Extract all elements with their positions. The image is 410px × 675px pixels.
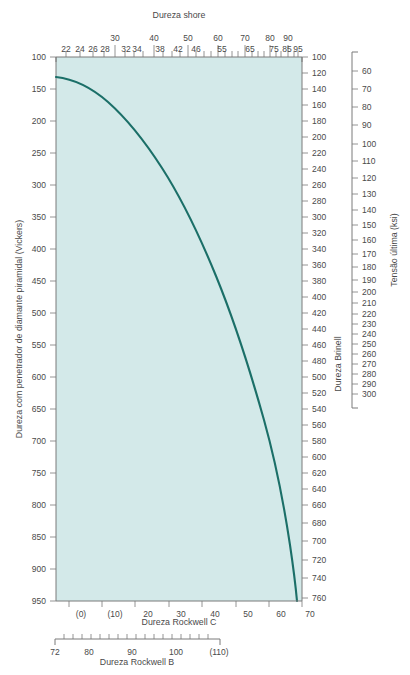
top-tick-label: 24 [75, 44, 85, 54]
left-tick-label: 350 [32, 212, 46, 222]
far-right-axis-title: Tensão última (ksi) [389, 213, 399, 286]
far-right-tick-label: 250 [362, 339, 376, 349]
left-tick-label: 450 [32, 276, 46, 286]
right-tick-label: 700 [312, 536, 326, 546]
bottom-tick-label: (10) [107, 609, 122, 619]
bottom-tick-label: 50 [243, 609, 253, 619]
bottom-secondary-tick-label: (110) [209, 647, 228, 657]
right-axis-labels: 100 120 140 160 180 200 220 240 260 280 … [312, 52, 326, 603]
right-tick-label: 500 [312, 372, 326, 382]
bottom-secondary-tick-label: 72 [50, 647, 60, 657]
right-tick-label: 600 [312, 452, 326, 462]
far-right-tick-label: 60 [362, 66, 372, 76]
left-tick-label: 550 [32, 340, 46, 350]
right-tick-label: 380 [312, 276, 326, 286]
top-tick-label: 60 [213, 33, 223, 43]
far-right-tick-label: 130 [362, 189, 376, 199]
top-tick-label: 34 [132, 44, 142, 54]
right-tick-label: 320 [312, 228, 326, 238]
left-tick-label: 950 [32, 596, 46, 606]
top-tick-label: 32 [121, 44, 131, 54]
top-tick-label: 30 [110, 33, 120, 43]
right-axis-ticks [302, 57, 308, 598]
top-axis-upper-labels: 30 40 50 60 70 80 90 [110, 33, 293, 43]
far-right-tick-label: 80 [362, 102, 372, 112]
right-tick-label: 480 [312, 356, 326, 366]
left-tick-label: 100 [32, 52, 46, 62]
right-tick-label: 680 [312, 518, 326, 528]
left-tick-label: 400 [32, 244, 46, 254]
far-right-tick-label: 200 [362, 287, 376, 297]
top-tick-label: 38 [155, 44, 165, 54]
top-tick-label: 65 [245, 44, 255, 54]
right-tick-label: 540 [312, 404, 326, 414]
far-right-tick-label: 150 [362, 220, 376, 230]
far-right-tick-label: 280 [362, 369, 376, 379]
far-right-tick-label: 220 [362, 309, 376, 319]
top-tick-label: 42 [173, 44, 183, 54]
top-tick-label: 28 [100, 44, 110, 54]
far-right-tick-label: 270 [362, 359, 376, 369]
far-right-tick-label: 90 [362, 120, 372, 130]
right-tick-label: 340 [312, 244, 326, 254]
bottom-secondary-tick-label: 80 [84, 647, 94, 657]
far-right-tick-label: 240 [362, 329, 376, 339]
far-right-tick-label: 140 [362, 205, 376, 215]
right-tick-label: 560 [312, 420, 326, 430]
right-tick-label: 100 [312, 52, 326, 62]
left-axis-vickers: Dureza com penetrador de diamante pirami… [14, 52, 56, 606]
left-tick-label: 650 [32, 404, 46, 414]
far-right-tick-label: 230 [362, 319, 376, 329]
far-right-tick-label: 120 [362, 173, 376, 183]
right-tick-label: 660 [312, 500, 326, 510]
top-tick-label: 46 [191, 44, 201, 54]
far-right-tick-label: 100 [362, 139, 376, 149]
right-tick-label: 140 [312, 84, 326, 94]
far-right-tick-label: 210 [362, 298, 376, 308]
left-tick-label: 800 [32, 500, 46, 510]
right-tick-label: 740 [312, 573, 326, 583]
left-tick-label: 900 [32, 564, 46, 574]
bottom-tick-label: (0) [76, 609, 87, 619]
bottom-secondary-labels: 72 80 90 100 (110) [50, 647, 229, 657]
far-right-tick-label: 170 [362, 249, 376, 259]
far-right-tick-label: 290 [362, 379, 376, 389]
top-tick-label: 90 [283, 33, 293, 43]
far-right-axis-tensile: Tensão última (ksi) [352, 52, 399, 408]
right-tick-label: 360 [312, 260, 326, 270]
bottom-tick-label: 20 [143, 609, 153, 619]
top-axis-title: Dureza shore [153, 10, 206, 20]
left-axis-labels: 100 150 200 250 300 350 400 450 500 550 … [32, 52, 46, 606]
bottom-tick-label: 60 [276, 609, 286, 619]
bottom-secondary-axis-title: Dureza Rockwell B [100, 657, 174, 667]
far-right-tick-label: 260 [362, 349, 376, 359]
far-right-tick-label: 190 [362, 275, 376, 285]
left-axis-title: Dureza com penetrador de diamante pirami… [14, 220, 24, 438]
top-tick-label: 75 [269, 44, 279, 54]
right-tick-label: 460 [312, 340, 326, 350]
right-tick-label: 200 [312, 132, 326, 142]
right-axis-brinell: Dureza Brinell [302, 52, 343, 603]
right-tick-label: 300 [312, 212, 326, 222]
top-tick-label: 22 [61, 44, 71, 54]
right-axis-title: Dureza Brinell [333, 336, 343, 391]
bottom-secondary-tick-label: 100 [169, 647, 183, 657]
far-right-axis-labels: 60 70 80 90 100 110 120 130 140 150 160 … [362, 66, 376, 399]
left-tick-label: 200 [32, 116, 46, 126]
left-tick-label: 700 [32, 436, 46, 446]
top-tick-label: 50 [183, 33, 193, 43]
right-tick-label: 160 [312, 100, 326, 110]
top-tick-label: 26 [88, 44, 98, 54]
left-tick-label: 500 [32, 308, 46, 318]
left-tick-label: 300 [32, 180, 46, 190]
right-tick-label: 400 [312, 292, 326, 302]
top-tick-label: 80 [265, 33, 275, 43]
far-right-tick-label: 180 [362, 262, 376, 272]
bottom-tick-label: 40 [210, 609, 220, 619]
bottom-axis-ticks [69, 601, 302, 607]
top-axis-lower-labels: 22 24 26 28 32 34 38 42 46 55 65 75 85 9… [61, 44, 303, 54]
right-tick-label: 220 [312, 148, 326, 158]
left-tick-label: 250 [32, 148, 46, 158]
right-tick-label: 120 [312, 68, 326, 78]
left-axis-ticks [50, 57, 56, 601]
